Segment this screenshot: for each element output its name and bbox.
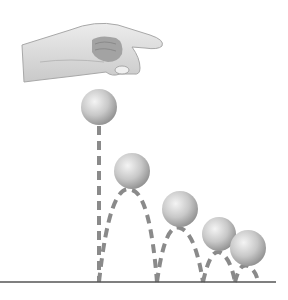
bounce-arc-2 xyxy=(157,227,203,282)
bounce-arc-3 xyxy=(203,252,235,282)
balls xyxy=(81,89,266,266)
diagram-canvas xyxy=(0,0,288,300)
hand-releasing-icon xyxy=(22,23,163,82)
ball-2 xyxy=(114,153,150,189)
bounce-arc-4 xyxy=(235,265,258,282)
bouncing-ball-diagram xyxy=(0,0,288,300)
ball-3 xyxy=(162,191,198,227)
ball-1 xyxy=(81,89,117,125)
ball-5 xyxy=(230,230,266,266)
bounce-arc-1 xyxy=(99,189,157,282)
